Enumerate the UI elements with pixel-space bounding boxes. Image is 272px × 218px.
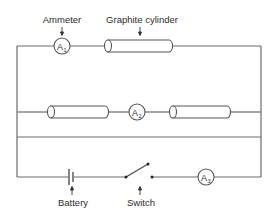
ammeter-a1-sub: 1 <box>64 47 67 53</box>
ammeter-a2-sub: 2 <box>139 113 142 119</box>
ammeter-a3-letter: A <box>201 173 207 183</box>
ammeter-a1-letter: A <box>57 42 63 52</box>
graphite-cylinder-label: Graphite cylinder <box>106 15 178 25</box>
graphite-cylinder-middle-right <box>170 106 231 118</box>
battery-label: Battery <box>58 198 88 208</box>
ammeter-label: Ammeter <box>43 15 82 25</box>
switch-label: Switch <box>127 198 155 208</box>
circuit-diagram: A 1 A 2 A 3 <box>0 0 272 218</box>
battery-icon <box>69 169 73 185</box>
ammeter-a2-letter: A <box>132 108 138 118</box>
graphite-cylinder-top <box>105 40 173 52</box>
switch-icon <box>125 163 154 179</box>
ammeter-a3-icon: A 3 <box>198 169 214 185</box>
ammeter-a1-icon: A 1 <box>54 38 70 54</box>
graphite-cylinder-middle-left <box>48 106 109 118</box>
circuit-svg: A 1 A 2 A 3 <box>0 0 272 218</box>
ammeter-a3-sub: 3 <box>208 178 211 184</box>
ammeter-a2-icon: A 2 <box>129 104 145 120</box>
